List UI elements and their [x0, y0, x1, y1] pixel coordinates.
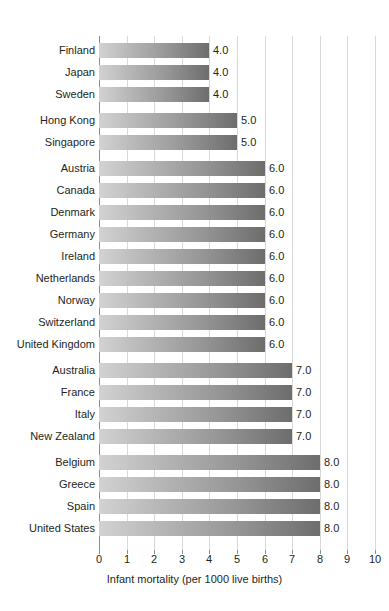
category-label: Hong Kong [0, 111, 95, 130]
bar [99, 205, 265, 220]
bar [99, 385, 292, 400]
bar [99, 363, 292, 378]
category-label: Finland [0, 41, 95, 60]
bar-row: Japan4.0 [0, 65, 389, 80]
bar-row: Norway6.0 [0, 293, 389, 308]
category-label: New Zealand [0, 427, 95, 446]
bar-row: Ireland6.0 [0, 249, 389, 264]
bar [99, 499, 320, 514]
bar-row: Italy7.0 [0, 407, 389, 422]
category-label: Singapore [0, 133, 95, 152]
bar-row: Canada6.0 [0, 183, 389, 198]
bar-value-label: 6.0 [269, 181, 284, 200]
bar-value-label: 5.0 [241, 133, 256, 152]
bar-value-label: 5.0 [241, 111, 256, 130]
category-label: Greece [0, 475, 95, 494]
bar-row: Germany6.0 [0, 227, 389, 242]
bar [99, 315, 265, 330]
bar-value-label: 7.0 [296, 405, 311, 424]
x-axis-title: Infant mortality (per 1000 live births) [0, 573, 389, 585]
category-label: Norway [0, 291, 95, 310]
bar [99, 227, 265, 242]
x-tick-label: 8 [308, 553, 332, 566]
bar-value-label: 6.0 [269, 269, 284, 288]
bar [99, 113, 237, 128]
x-tick-label: 0 [87, 553, 111, 566]
bar-row: Greece8.0 [0, 477, 389, 492]
category-label: France [0, 383, 95, 402]
bar-row: Spain8.0 [0, 499, 389, 514]
bar [99, 271, 265, 286]
bar [99, 521, 320, 536]
x-tick-label: 9 [335, 553, 359, 566]
bar-row: Switzerland6.0 [0, 315, 389, 330]
bar [99, 87, 209, 102]
bar-row: Singapore5.0 [0, 135, 389, 150]
bar-value-label: 4.0 [213, 85, 228, 104]
bar [99, 43, 209, 58]
category-label: Austria [0, 159, 95, 178]
bar-row: Netherlands6.0 [0, 271, 389, 286]
bar-value-label: 6.0 [269, 247, 284, 266]
x-tick-label: 1 [115, 553, 139, 566]
bar [99, 455, 320, 470]
bar-row: New Zealand7.0 [0, 429, 389, 444]
category-label: Denmark [0, 203, 95, 222]
category-label: Ireland [0, 247, 95, 266]
x-tick-label: 4 [197, 553, 221, 566]
category-label: Japan [0, 63, 95, 82]
bar-row: Australia7.0 [0, 363, 389, 378]
bar-value-label: 6.0 [269, 225, 284, 244]
bar [99, 161, 265, 176]
bar [99, 407, 292, 422]
bar-value-label: 7.0 [296, 383, 311, 402]
x-tick-label: 2 [142, 553, 166, 566]
bar-row: Austria6.0 [0, 161, 389, 176]
bar-value-label: 6.0 [269, 159, 284, 178]
category-label: Belgium [0, 453, 95, 472]
bar-value-label: 7.0 [296, 361, 311, 380]
category-label: United Kingdom [0, 335, 95, 354]
bar [99, 65, 209, 80]
bar-value-label: 6.0 [269, 203, 284, 222]
bar-value-label: 6.0 [269, 313, 284, 332]
bar-value-label: 8.0 [324, 497, 339, 516]
category-label: Australia [0, 361, 95, 380]
bar-row: Belgium8.0 [0, 455, 389, 470]
category-label: Switzerland [0, 313, 95, 332]
category-label: Italy [0, 405, 95, 424]
bar [99, 477, 320, 492]
x-tick-label: 7 [280, 553, 304, 566]
bar [99, 429, 292, 444]
bar-value-label: 6.0 [269, 335, 284, 354]
bar-value-label: 8.0 [324, 453, 339, 472]
bar [99, 249, 265, 264]
bar-row: Sweden4.0 [0, 87, 389, 102]
bar-value-label: 8.0 [324, 475, 339, 494]
category-label: Spain [0, 497, 95, 516]
x-tick-label: 10 [363, 553, 387, 566]
bar-value-label: 7.0 [296, 427, 311, 446]
category-label: Sweden [0, 85, 95, 104]
bar-row: Hong Kong5.0 [0, 113, 389, 128]
bar-value-label: 4.0 [213, 63, 228, 82]
category-label: Canada [0, 181, 95, 200]
bar [99, 337, 265, 352]
bar-value-label: 6.0 [269, 291, 284, 310]
infant-mortality-bar-chart: Finland4.0Japan4.0Sweden4.0Hong Kong5.0S… [0, 0, 389, 611]
bar-row: France7.0 [0, 385, 389, 400]
x-tick-label: 5 [225, 553, 249, 566]
category-label: United States [0, 519, 95, 538]
bar [99, 293, 265, 308]
bar [99, 183, 265, 198]
bar-value-label: 4.0 [213, 41, 228, 60]
bar-row: Finland4.0 [0, 43, 389, 58]
x-tick-label: 3 [170, 553, 194, 566]
x-tick-label: 6 [253, 553, 277, 566]
category-label: Germany [0, 225, 95, 244]
bar-row: United States8.0 [0, 521, 389, 536]
bar-row: Denmark6.0 [0, 205, 389, 220]
category-label: Netherlands [0, 269, 95, 288]
bar-row: United Kingdom6.0 [0, 337, 389, 352]
bar [99, 135, 237, 150]
